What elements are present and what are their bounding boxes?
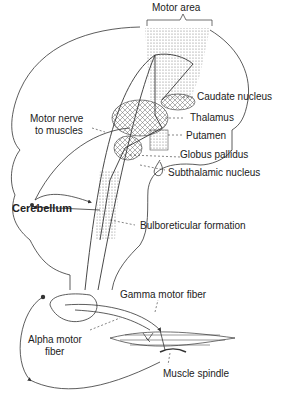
label-globus-pallidus: Globus pallidus <box>180 150 248 160</box>
motor-control-diagram: Motor area Caudate nucleus Motor nerve t… <box>0 0 285 399</box>
motor-area-bracket <box>147 14 212 26</box>
label-motor-area: Motor area <box>152 3 200 13</box>
globus-shape <box>114 136 142 160</box>
muscle-spindle <box>160 349 186 352</box>
label-caudate-nucleus: Caudate nucleus <box>197 92 272 102</box>
label-putamen: Putamen <box>186 131 226 141</box>
gamma-fiber <box>75 310 150 330</box>
label-muscle-spindle: Muscle spindle <box>163 369 229 379</box>
caudate-shape <box>161 94 195 110</box>
spinal-cord <box>50 294 97 322</box>
label-thalamus: Thalamus <box>190 113 234 123</box>
label-cerebellum: Cerebellum <box>12 203 72 214</box>
label-motor-nerve-line2: to muscles <box>35 126 83 136</box>
label-gamma-motor-fiber: Gamma motor fiber <box>120 290 206 300</box>
muscle <box>110 332 235 346</box>
cerebellum-arrow <box>35 194 90 202</box>
pyramidal-tract <box>85 55 155 290</box>
bulbo-shape <box>95 170 120 240</box>
label-alpha-motor-line2: fiber <box>45 347 64 357</box>
label-alpha-motor-line1: Alpha motor <box>28 335 82 345</box>
label-subthalamic-nucleus: Subthalamic nucleus <box>168 168 260 178</box>
label-motor-nerve-line1: Motor nerve <box>30 114 83 124</box>
nerve-ending <box>143 333 153 342</box>
label-bulboreticular-formation: Bulboreticular formation <box>140 221 246 231</box>
